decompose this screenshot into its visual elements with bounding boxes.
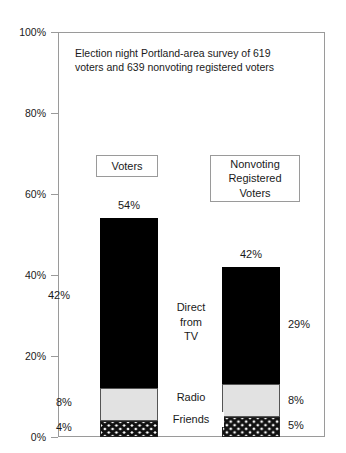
y-tick-mark (51, 356, 58, 357)
series-label-radio: Radio (160, 390, 222, 405)
y-tick-mark (51, 275, 58, 276)
chart-title: Election night Portland-area survey of 6… (75, 46, 315, 74)
bar-segment-nonvoting-radio (222, 384, 280, 417)
bar-segment-nonvoting-tv (222, 267, 280, 385)
category-label-nonvoting-registered-voters: Nonvoting Registered Voters (210, 155, 300, 202)
category-label-voters: Voters (96, 155, 158, 177)
series-label-direct-from-tv: Direct from TV (162, 300, 220, 344)
series-label-friends: Friends (158, 412, 224, 427)
value-label-voters-total: 54% (100, 199, 158, 212)
bar-segment-nonvoting-friends (222, 417, 280, 437)
bar-segment-voters-friends (100, 421, 158, 437)
y-tick-label: 20% (0, 350, 46, 362)
value-label-nonvoting-radio: 8% (288, 394, 332, 407)
y-tick-label: 60% (0, 188, 46, 200)
plot-area (58, 32, 325, 437)
y-tick-mark (51, 32, 58, 33)
chart-figure: 100% 80% 60% 40% 20% 0% Election night P… (0, 0, 346, 453)
y-tick-label: 40% (0, 269, 46, 281)
y-tick-mark (51, 194, 58, 195)
bar-segment-voters-radio (100, 388, 158, 421)
value-label-voters-radio: 8% (56, 396, 102, 409)
cross-hatch-pattern-icon (223, 418, 279, 436)
y-tick-label: 100% (0, 26, 46, 38)
bar-segment-voters-tv (100, 218, 158, 389)
y-tick-mark (51, 437, 58, 438)
y-tick-label: 0% (0, 431, 46, 443)
value-label-nonvoting-tv: 29% (288, 318, 332, 331)
value-label-nonvoting-friends: 5% (288, 419, 332, 432)
y-tick-label: 80% (0, 107, 46, 119)
value-label-nonvoting-total: 42% (222, 248, 280, 261)
value-label-voters-tv: 42% (48, 289, 94, 302)
y-tick-mark (51, 113, 58, 114)
cross-hatch-pattern-icon (101, 422, 157, 436)
value-label-voters-friends: 4% (56, 421, 102, 434)
